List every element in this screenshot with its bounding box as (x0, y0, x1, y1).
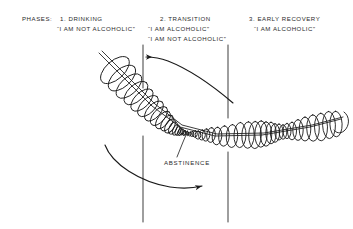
recovery-arrow-bottom (105, 145, 202, 188)
helix-right-cone (188, 111, 342, 149)
relapse-arrow-top (146, 57, 233, 103)
diagram-artwork (0, 0, 353, 229)
abstinence-leader-line (177, 135, 186, 157)
figure-canvas: PHASES: 1. DRINKING “I AM NOT ALCOHOLIC”… (0, 0, 353, 229)
